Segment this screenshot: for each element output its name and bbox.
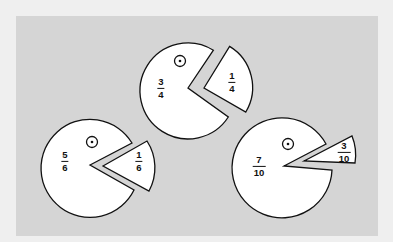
fraction-label-3-10: 3 10	[338, 141, 351, 163]
fraction-label-1-4: 1 4	[228, 71, 235, 93]
fraction-label-7-10: 7 10	[253, 155, 266, 177]
denominator: 10	[338, 154, 351, 164]
fraction-label-3-4: 3 4	[157, 77, 164, 99]
denominator: 10	[253, 168, 266, 178]
numerator: 3	[157, 77, 164, 87]
numerator: 3	[340, 141, 347, 151]
numerator: 7	[255, 155, 262, 165]
numerator: 1	[228, 71, 235, 81]
denominator: 6	[135, 163, 142, 173]
denominator: 6	[61, 163, 68, 173]
pie-main-7-10	[232, 118, 332, 218]
fraction-label-5-6: 5 6	[61, 150, 68, 172]
denominator: 4	[228, 84, 235, 94]
denominator: 4	[157, 90, 164, 100]
numerator: 1	[135, 150, 142, 160]
fraction-pies-diagram	[0, 0, 393, 242]
numerator: 5	[61, 150, 68, 160]
fraction-label-1-6: 1 6	[135, 150, 142, 172]
